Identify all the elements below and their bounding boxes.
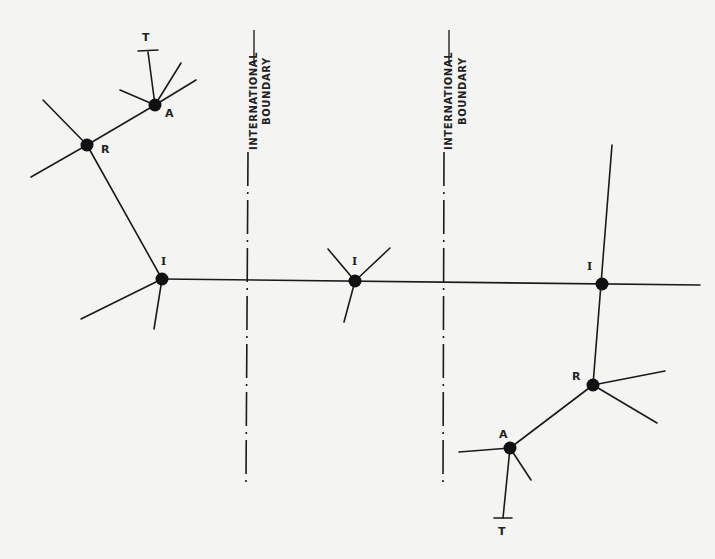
label-right-I: I <box>587 260 592 273</box>
node-right-I <box>596 278 609 291</box>
boundary-label-boundary: BOUNDARY <box>261 57 272 125</box>
international-boundary-2: INTERNATIONAL BOUNDARY <box>443 30 468 482</box>
label-left-T: T <box>142 31 150 44</box>
label-left-R: R <box>101 143 110 156</box>
label-right-A: A <box>499 428 508 441</box>
boundary-label-international: INTERNATIONAL <box>248 52 259 150</box>
label-mid-I: I <box>352 255 357 268</box>
node-left-I <box>156 273 169 286</box>
node-right-R <box>587 379 600 392</box>
diagram-canvas: INTERNATIONAL BOUNDARY INTERNATIONAL BOU… <box>0 0 715 559</box>
label-right-T: T <box>498 525 506 538</box>
label-left-I: I <box>161 255 166 268</box>
label-right-R: R <box>572 370 581 383</box>
node-mid-I <box>349 275 362 288</box>
node-left-R <box>81 139 94 152</box>
boundary-label-boundary: BOUNDARY <box>457 57 468 125</box>
boundary-label-international: INTERNATIONAL <box>443 52 454 150</box>
node-right-A <box>504 442 517 455</box>
node-left-A <box>149 99 162 112</box>
left-hierarchy <box>31 50 196 329</box>
label-left-A: A <box>165 107 174 120</box>
international-boundary-1: INTERNATIONAL BOUNDARY <box>246 30 272 482</box>
main-connector-line <box>162 279 700 285</box>
right-hierarchy <box>459 145 665 518</box>
